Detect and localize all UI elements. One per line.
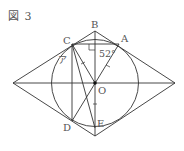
right-angle-mark [89,44,95,50]
tangent-left-top [13,31,95,83]
label-o: O [98,85,106,96]
label-d: D [63,122,71,133]
tangent-bottom-left [13,83,95,136]
label-a: A [120,33,129,44]
label-e: E [97,118,104,129]
angle-52-label: 52° [99,48,116,59]
geometry-diagram: B A C O D E 52° ア [0,0,184,151]
label-b: B [91,19,98,30]
label-c: C [63,35,71,46]
tangent-right-bottom [95,83,175,136]
center-point-o [93,81,97,85]
unknown-angle-label: ア [58,55,67,65]
tick-ao [106,65,110,67]
